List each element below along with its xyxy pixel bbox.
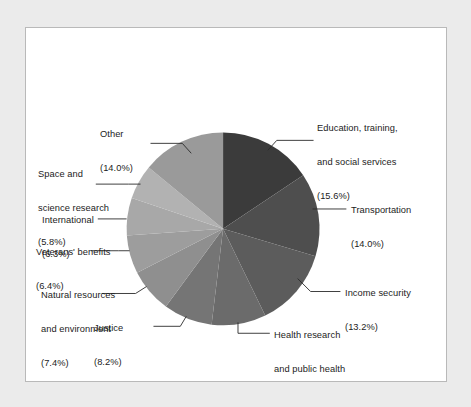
leader-line-justice: [153, 316, 186, 326]
label-space-science-line3: (5.8%): [38, 237, 109, 248]
label-income-security-line1: Income security: [345, 288, 411, 299]
label-natural-resources-line3: (7.4%): [41, 358, 115, 369]
label-transportation-line2: (14.0%): [351, 239, 411, 250]
label-space-science-line1: Space and: [38, 169, 109, 180]
figure-plate: Education, training, and social services…: [25, 27, 447, 382]
label-space-science-line2: science research: [38, 203, 109, 214]
leader-line-health-research: [238, 322, 270, 333]
label-transportation-line1: Transportation: [351, 205, 411, 216]
figure-outer-frame: Education, training, and social services…: [0, 0, 471, 407]
label-other: Other (14.0%): [100, 106, 133, 197]
label-income-security-line2: (13.2%): [345, 322, 411, 333]
label-income-security: Income security (13.2%): [345, 265, 411, 356]
label-health-research-line1: Health research: [274, 330, 345, 341]
label-education-line1: Education, training,: [317, 123, 398, 134]
label-other-line2: (14.0%): [100, 163, 133, 174]
label-other-line1: Other: [100, 129, 133, 140]
label-natural-resources-line2: and environment: [41, 324, 115, 335]
label-education-line2: and social services: [317, 157, 398, 168]
label-space-science-research: Space and science research (5.8%): [38, 146, 109, 271]
pie-slices: [127, 132, 320, 325]
label-health-research-line2: and public health: [274, 364, 345, 375]
label-transportation: Transportation (14.0%): [351, 182, 411, 273]
label-health-research: Health research and public health (9.1%): [274, 307, 345, 382]
